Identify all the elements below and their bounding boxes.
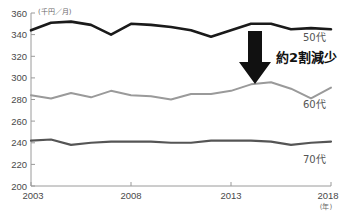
series-line-60dai [31, 82, 331, 99]
series-line-50dai [31, 22, 331, 37]
y-tick-label-300: 300 [11, 72, 27, 83]
line-chart: 360 340 320 300 280 260 240 220 200 (千円／… [0, 0, 350, 214]
x-tick-label-2013: 2013 [220, 190, 241, 201]
y-tick-label-320: 320 [11, 51, 27, 62]
y-tick-label-220: 220 [11, 159, 27, 170]
annotation-decrease-label: 約2割減少 [276, 50, 337, 65]
y-tick-label-360: 360 [11, 8, 27, 19]
series-label-70dai: 70代 [303, 154, 326, 165]
y-tick-label-280: 280 [11, 94, 27, 105]
y-axis-unit-label: (千円／月) [38, 7, 72, 16]
y-axis-ticks [31, 13, 35, 186]
series-label-50dai: 50代 [303, 32, 326, 43]
x-axis-ticks [31, 182, 331, 186]
series-label-60dai: 60代 [303, 99, 326, 110]
y-tick-label-340: 340 [11, 29, 27, 40]
chart-container: 360 340 320 300 280 260 240 220 200 (千円／… [0, 0, 350, 214]
y-tick-label-260: 260 [11, 116, 27, 127]
x-axis-unit-label: (年) [320, 202, 333, 211]
down-arrow-icon [239, 31, 271, 84]
x-tick-label-2003: 2003 [22, 190, 43, 201]
y-tick-label-240: 240 [11, 137, 27, 148]
x-tick-label-2008: 2008 [120, 190, 141, 201]
x-tick-label-2018: 2018 [317, 190, 338, 201]
series-line-70dai [31, 140, 331, 145]
